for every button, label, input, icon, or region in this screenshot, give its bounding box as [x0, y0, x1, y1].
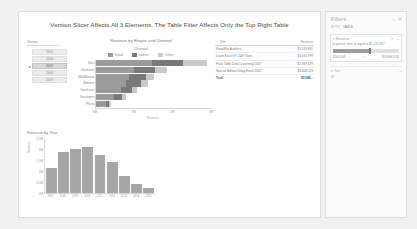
filter-range-values: $16,564 ▸ $3,806,125: [333, 55, 399, 59]
table-row[interactable]: Road Pro Auditors$1,249,881: [215, 46, 314, 53]
x-axis-tick: 2007: [45, 195, 56, 198]
bar-segment[interactable]: [155, 67, 166, 73]
cell-title: Learn Excel 97-2007 from...: [215, 53, 287, 60]
filter-range-slider[interactable]: [333, 49, 399, 53]
bar-stack[interactable]: [96, 101, 111, 107]
column-bar[interactable]: [107, 162, 118, 193]
bar-segment[interactable]: [122, 94, 126, 100]
bar-segment[interactable]: [96, 94, 114, 100]
collapse-icon[interactable]: ‹: [392, 17, 394, 22]
bar-segment[interactable]: [109, 101, 111, 107]
slicer-item-2[interactable]: ▸2007: [27, 63, 67, 70]
legend-item-2[interactable]: Online: [158, 53, 174, 57]
legend-swatch-icon: [158, 53, 163, 56]
table-element[interactable]: ⌃ TitleRevenue Road Pro Auditors$1,249,8…: [215, 39, 314, 81]
bar-category-label: Southwest: [73, 94, 96, 100]
filters-pane[interactable]: Filters ‹ ✕ ATTR TABLE ▾ Revenue ↺ ⋯ is …: [325, 11, 407, 218]
bar-chart-plot[interactable]: EastNortheastMid/AtlanticMidwestSoutheas…: [95, 60, 211, 108]
column-bar[interactable]: [58, 152, 69, 193]
slicer-item-4[interactable]: 2009: [27, 77, 67, 84]
column-bar[interactable]: [143, 188, 154, 193]
bar-segment[interactable]: [114, 94, 122, 100]
slicer-item-0[interactable]: 2006: [27, 49, 67, 56]
x-axis-tick: 2009: [70, 195, 81, 198]
bar-segment[interactable]: [129, 74, 145, 80]
breadcrumb-value[interactable]: TABLE: [343, 25, 354, 29]
bar-segment[interactable]: [183, 60, 207, 66]
legend-swatch-icon: [132, 53, 137, 56]
revenue-by-year-chart[interactable]: Revenue by Year Revenue 2.5M2M1.5M1M0.5M…: [27, 130, 157, 214]
table-row[interactable]: Special Edition Using Excel 2007$3,608,5…: [215, 67, 314, 74]
bar-stack[interactable]: [96, 74, 154, 80]
filter-year-name[interactable]: ▾ Year: [331, 69, 397, 73]
bar-row[interactable]: Midwest: [96, 80, 211, 86]
filter-card-year[interactable]: ▾ Year ⋯ All: [330, 66, 402, 79]
column-header[interactable]: Revenue: [287, 39, 314, 46]
bar-row[interactable]: East: [96, 60, 211, 66]
bar-segment[interactable]: [96, 74, 129, 80]
revenue-table[interactable]: ⌃ TitleRevenue Road Pro Auditors$1,249,8…: [215, 39, 314, 91]
table-row[interactable]: Pivot Table Data Crunching 2007$1,387,12…: [215, 60, 314, 67]
column-chart-body[interactable]: Revenue 2.5M2M1.5M1M0.5M0M 2007200820092…: [27, 139, 157, 201]
bar-stack[interactable]: [96, 87, 137, 93]
bar-row[interactable]: Southeast: [96, 87, 211, 93]
version-slicer[interactable]: Version 20062006▸200720082009: [27, 40, 67, 92]
filter-year-more-icon[interactable]: ⋯: [399, 69, 402, 73]
bar-segment[interactable]: [126, 80, 141, 86]
bar-row[interactable]: Southwest: [96, 94, 211, 100]
revenue-by-region-chart[interactable]: Revenue by Region and Channel Channel Re…: [71, 38, 211, 128]
cell-title: Road Pro Auditors: [215, 46, 287, 53]
y-axis-tick: 1.5M: [36, 159, 43, 163]
filter-reset-icon[interactable]: ↺: [391, 37, 394, 41]
slider-handle[interactable]: [369, 48, 371, 54]
bar-category-label: Plains: [73, 101, 96, 107]
slicer-item-label: 2006: [32, 56, 67, 61]
filter-card-revenue[interactable]: ▾ Revenue ↺ ⋯ is greater than or equal t…: [330, 34, 402, 62]
column-chart-plot[interactable]: [44, 139, 155, 194]
bar-chart-legend[interactable]: RetailIndirectOnline: [71, 53, 211, 57]
bar-segment[interactable]: [146, 74, 154, 80]
slicer-list[interactable]: 20062006▸200720082009: [27, 49, 67, 84]
bar-segment[interactable]: [96, 101, 106, 107]
bar-segment[interactable]: [134, 67, 155, 73]
bar-segment[interactable]: [96, 60, 152, 66]
table-header-row: ⌃ TitleRevenue: [215, 39, 314, 46]
slicer-item-label: 2007: [32, 63, 67, 68]
column-bar[interactable]: [131, 184, 142, 193]
bar-row[interactable]: Northeast: [96, 67, 211, 73]
column-bar[interactable]: [95, 155, 106, 193]
bar-stack[interactable]: [96, 60, 207, 66]
bar-row[interactable]: Plains: [96, 101, 211, 107]
cell-title: Special Edition Using Excel 2007: [215, 67, 287, 74]
filter-field-name[interactable]: ▾ Revenue: [333, 37, 389, 41]
legend-label: Retail: [115, 53, 123, 57]
bar-segment[interactable]: [96, 67, 134, 73]
breadcrumb-label: ATTR: [331, 25, 340, 29]
column-bar[interactable]: [119, 176, 130, 193]
bar-segment[interactable]: [141, 80, 148, 86]
bar-stack[interactable]: [96, 67, 167, 73]
bar-segment[interactable]: [121, 87, 132, 93]
bar-segment[interactable]: [132, 87, 137, 93]
bar-stack[interactable]: [96, 94, 126, 100]
slicer-item-3[interactable]: 2008: [27, 70, 67, 77]
column-bar[interactable]: [46, 168, 57, 193]
column-bar[interactable]: [70, 149, 81, 193]
bar-segment[interactable]: [96, 80, 126, 86]
legend-item-1[interactable]: Indirect: [132, 53, 149, 57]
bar-stack[interactable]: [96, 80, 148, 86]
bar-segment[interactable]: [96, 87, 121, 93]
y-axis-tick: 2M: [39, 148, 43, 152]
close-icon[interactable]: ✕: [398, 17, 402, 22]
slicer-header: Version: [27, 40, 60, 46]
column-bar[interactable]: [82, 147, 93, 193]
slicer-item-1[interactable]: 2006: [27, 56, 67, 63]
column-header[interactable]: ⌃ Title: [215, 39, 287, 46]
table-body[interactable]: Road Pro Auditors$1,249,881Learn Excel 9…: [215, 46, 314, 81]
legend-item-0[interactable]: Retail: [108, 53, 123, 57]
bar-row[interactable]: Mid/Atlantic: [96, 74, 211, 80]
table-row[interactable]: Learn Excel 97-2007 from...$3,032,799: [215, 53, 314, 60]
bar-segment[interactable]: [152, 60, 184, 66]
filter-more-icon[interactable]: ⋯: [396, 37, 399, 41]
bar-category-label: Mid/Atlantic: [73, 74, 96, 80]
